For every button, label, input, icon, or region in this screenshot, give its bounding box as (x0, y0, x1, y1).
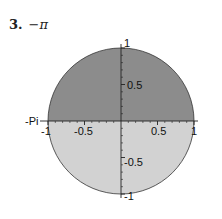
unit-circle-plot: -Pi -1 -0.5 0.5 1 1 0.5 -0.5 -1 (0, 0, 222, 219)
y-tick-label-05: 0.5 (127, 79, 142, 91)
y-tick-label-neg1: -1 (124, 190, 134, 202)
x-tick-label-05: 0.5 (151, 125, 166, 137)
y-tick-label-1: 1 (124, 37, 130, 49)
y-tick-label-neg05: -0.5 (124, 156, 143, 168)
x-tick-label-neg05: -0.5 (74, 125, 93, 137)
pi-annotation: -Pi (25, 115, 38, 127)
x-tick-label-neg1: -1 (41, 125, 51, 137)
x-tick-label-1: 1 (191, 125, 197, 137)
